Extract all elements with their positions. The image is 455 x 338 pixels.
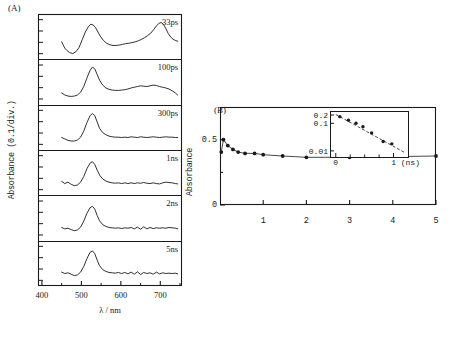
panel-a-xlabel: λ / nm: [99, 305, 121, 315]
panel-a-xtick-700: 700: [154, 290, 167, 300]
panel-a-xtick-600: 600: [114, 290, 127, 300]
panel-b-ytick-0: 0: [212, 200, 217, 210]
panel-a-caption: (A): [8, 3, 21, 13]
panel-a-trace-label-5ns: 5ns: [166, 244, 178, 254]
panel-b-xtick-3: 3: [347, 216, 352, 226]
panel-a-plot: [38, 14, 182, 286]
panel-a-trace-label-33ps: 33ps: [162, 17, 178, 27]
panel-a-trace-label-1ns: 1ns: [166, 153, 178, 163]
panel-b-ytick-0.5: 0.5: [202, 135, 217, 145]
panel-b-ylabel: Absorbance: [185, 148, 195, 196]
panel-b-xtick-4: 4: [390, 216, 395, 226]
panel-a-xtick-500: 500: [75, 290, 88, 300]
panel-a-trace-label-2ns: 2ns: [166, 198, 178, 208]
panel-a-spectra: [38, 14, 182, 286]
panel-b-inset-xtick-1: 1 (ns): [391, 158, 420, 167]
panel-b-xtick-2: 2: [304, 216, 309, 226]
panel-b-inset-xtick-0: 0: [333, 158, 338, 167]
panel-a-trace-label-100ps: 100ps: [158, 62, 178, 72]
panel-b-inset-ytick-0.01: 0.01: [309, 146, 328, 155]
panel-a-ylabel: Absorbance (0.1/div.): [7, 101, 17, 200]
figure-root: (A) Absorbance (0.1/div.) 400500600700 λ…: [0, 0, 455, 338]
panel-a-trace-label-300ps: 300ps: [158, 108, 178, 118]
panel-b-caption: (B): [214, 105, 226, 115]
panel-b-xtick-1: 1: [261, 216, 266, 226]
panel-b-inset-ytick-0.1: 0.1: [314, 119, 328, 128]
panel-b-xtick-5: 5: [433, 216, 438, 226]
panel-a-xtick-400: 400: [36, 290, 49, 300]
